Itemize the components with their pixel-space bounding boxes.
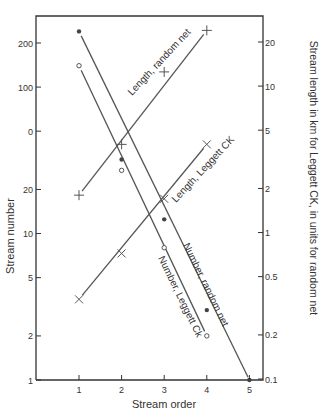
left-axis-ticks: 20010002010521 [18, 39, 41, 386]
right-tick-label: 0.1 [265, 375, 278, 385]
x-tick-label: 1 [76, 385, 81, 395]
left-tick-label: 1 [28, 376, 33, 386]
filled-dot-marker [119, 157, 123, 161]
y2-axis-label: Stream length in km for Leggett CK, in u… [308, 41, 320, 315]
filled-dot-marker [205, 308, 209, 312]
right-tick-label: 2 [265, 184, 270, 194]
open-circle-marker [162, 246, 166, 250]
filled-dot-marker [77, 29, 81, 33]
open-circle-marker [205, 334, 209, 338]
left-tick-label: 100 [18, 83, 33, 93]
left-tick-label: 0 [28, 127, 33, 137]
right-tick-label: 10 [265, 82, 275, 92]
right-tick-label: 1 [265, 228, 270, 238]
right-tick-label: 5 [265, 126, 270, 136]
x-tick-label: 2 [119, 385, 124, 395]
x-axis-ticks: 12345 [76, 375, 251, 395]
right-tick-label: 0.5 [265, 272, 278, 282]
filled-dot-marker [162, 217, 166, 221]
right-tick-label: 0.2 [265, 330, 278, 340]
series-line [82, 148, 203, 295]
right-tick-label: 20 [265, 38, 275, 48]
x-tick-label: 4 [204, 385, 209, 395]
stream-order-chart: 20010002010521 20105210.50.20.1 12345 St… [0, 0, 334, 420]
left-tick-label: 2 [28, 331, 33, 341]
label-length-leggett-ck: Length, Leggett CK [169, 134, 236, 205]
x-tick-label: 3 [162, 385, 167, 395]
x-tick-label: 5 [247, 385, 252, 395]
series-line [82, 34, 204, 191]
left-tick-label: 20 [23, 185, 33, 195]
open-circle-marker [77, 63, 81, 67]
left-tick-label: 10 [23, 229, 33, 239]
series-line [81, 70, 205, 331]
x-axis-label: Stream order [132, 398, 197, 410]
left-tick-label: 5 [28, 273, 33, 283]
y-axis-label: Stream number [4, 198, 16, 274]
left-tick-label: 200 [18, 39, 33, 49]
open-circle-marker [119, 168, 123, 172]
right-axis-ticks: 20105210.50.20.1 [258, 38, 278, 385]
